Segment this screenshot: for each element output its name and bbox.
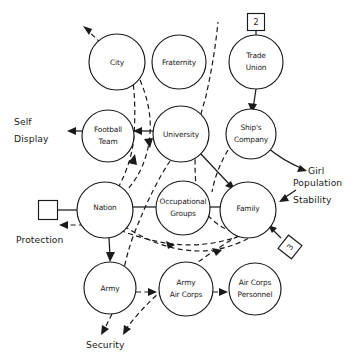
node-army-air-corps-label-line1: Army: [177, 278, 197, 287]
node-army-air-corps-label-line2: Air Corps: [170, 290, 203, 299]
box-two[interactable]: 2: [248, 14, 265, 31]
node-nation[interactable]: Nation: [77, 182, 133, 238]
node-university-label: University: [163, 130, 200, 139]
label-self-display-line2: Display: [14, 133, 49, 144]
node-university[interactable]: University: [153, 106, 209, 162]
edge-army-to-security: [101, 314, 112, 335]
node-army[interactable]: Army: [84, 262, 136, 314]
diagram-svg: City Fraternity Trade Union Football Tea…: [0, 0, 353, 362]
node-nation-label: Nation: [93, 203, 117, 212]
edge-army-to-army-air-corps: [136, 288, 157, 296]
node-trade-union[interactable]: Trade Union: [229, 35, 283, 89]
label-population-stability: Population Stability: [293, 177, 342, 205]
box-blank[interactable]: [39, 201, 58, 220]
label-self-display-line1: Self: [14, 116, 32, 127]
node-air-corps-personnel-label-line2: Personnel: [238, 290, 273, 299]
node-family[interactable]: Family: [220, 182, 276, 238]
node-family-label: Family: [237, 204, 261, 213]
diagram-canvas: City Fraternity Trade Union Football Tea…: [0, 0, 353, 362]
node-army-air-corps[interactable]: Army Air Corps: [159, 262, 213, 316]
label-security: Security: [86, 339, 125, 350]
node-ships-company[interactable]: Ship's Company: [226, 109, 276, 159]
edge-nation-to-army: [106, 238, 115, 262]
edge-university-to-family: [200, 153, 235, 190]
edge-army-air-corps-to-personnel: [213, 288, 228, 296]
node-army-label: Army: [101, 284, 121, 293]
node-football-team-label-line1: Football: [94, 125, 122, 134]
node-layer: City Fraternity Trade Union Football Tea…: [39, 14, 302, 317]
node-occupational-groups-label-line1: Occupational: [160, 197, 207, 206]
label-girl: Girl: [308, 165, 324, 176]
node-air-corps-personnel[interactable]: Air Corps Personnel: [229, 263, 281, 315]
node-football-team[interactable]: Football Team: [82, 110, 134, 162]
node-ships-company-label-line1: Ship's: [240, 123, 261, 132]
node-occupational-groups-label-line2: Groups: [170, 209, 196, 218]
node-city-label: City: [110, 58, 125, 67]
edge-football-team-to-self-display: [67, 127, 82, 135]
node-fraternity[interactable]: Fraternity: [152, 35, 206, 89]
node-occupational-groups[interactable]: Occupational Groups: [156, 181, 210, 235]
label-self-display: Self Display: [14, 116, 49, 144]
node-trade-union-label-line2: Union: [246, 63, 267, 72]
box-two-label: 2: [253, 18, 258, 27]
node-air-corps-personnel-label-line1: Air Corps: [239, 278, 272, 287]
edge-ships-company-to-girl: [268, 148, 307, 172]
label-population-stability-line1: Population: [293, 177, 342, 188]
node-trade-union-label-line1: Trade: [245, 51, 266, 60]
node-fraternity-label: Fraternity: [162, 58, 197, 67]
box-three[interactable]: 3: [278, 235, 302, 259]
label-protection: Protection: [16, 234, 64, 245]
node-city[interactable]: City: [89, 34, 145, 90]
label-population-stability-line2: Stability: [293, 194, 332, 205]
node-football-team-label-line2: Team: [98, 137, 118, 146]
node-ships-company-label-line2: Company: [234, 135, 269, 144]
